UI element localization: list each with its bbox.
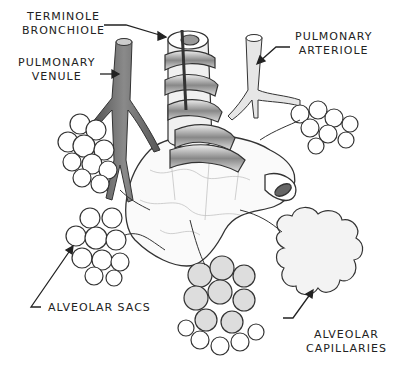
lung-alveoli-diagram: TERMINOLE BRONCHIOLE PULMONARY VENULE PU… (0, 0, 407, 376)
alveolar-cluster-upper-right (291, 101, 358, 154)
label-pulmonary-venule: PULMONARY VENULE (18, 56, 95, 84)
alveolar-cluster-sectioned (178, 256, 264, 355)
alveolar-capillaries-cloud (277, 207, 363, 294)
alveolar-cluster-upper-left (58, 114, 117, 193)
alveolar-cluster-lower-left (66, 208, 129, 286)
label-alveolar-sacs: ALVEOLAR SACS (48, 301, 151, 315)
label-pulmonary-arteriole: PULMONARY ARTERIOLE (295, 30, 372, 58)
label-alveolar-capillaries: ALVEOLAR CAPILLARIES (306, 328, 387, 356)
label-terminole-bronchiole: TERMINOLE BRONCHIOLE (22, 10, 105, 38)
